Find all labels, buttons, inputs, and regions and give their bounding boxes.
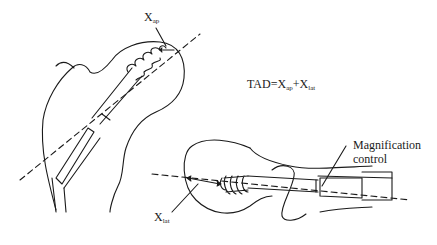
ap-screw-threads <box>127 46 166 80</box>
tad-diagram <box>0 0 437 245</box>
lat-trochanter <box>272 166 306 221</box>
magnification-line1: Magnification <box>353 138 421 152</box>
ap-shaft-right <box>64 188 66 212</box>
ap-view-femur <box>42 42 184 212</box>
ap-trochanter <box>56 62 74 68</box>
magnification-pointer <box>322 146 346 186</box>
ap-axis-dashed <box>20 34 200 180</box>
magnification-control-label: Magnificationcontrol <box>353 138 421 166</box>
lat-screw-threads <box>220 176 248 194</box>
xlat-arrow <box>172 176 221 212</box>
ap-side-plate <box>56 128 100 188</box>
xlat-label: Xlat <box>154 211 170 225</box>
tad-formula: TAD=Xap+Xlat <box>247 78 315 92</box>
lat-shaft-bottom <box>320 207 372 212</box>
xap-label: Xap <box>144 11 159 25</box>
magnification-line2: control <box>353 152 421 166</box>
ap-femur-outline <box>42 42 184 212</box>
